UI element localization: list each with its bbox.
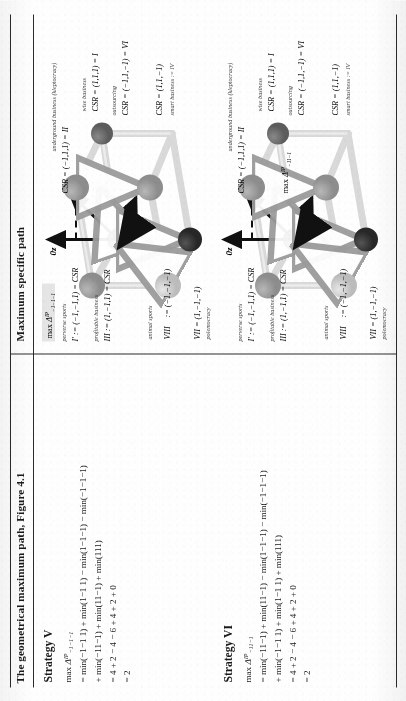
- vertex-IV-formula-2: CSR = (1,1,−1): [331, 63, 340, 115]
- vertex-I-prime-formula-2: I' := (−1,−1,1) = CSR: [247, 267, 256, 342]
- strategy-v-objective: max ΔIP−1−1−1: [61, 372, 76, 682]
- cube-diagram-top-svg: 0z 0y 0x: [40, 11, 216, 343]
- vertex-I-formula: CSR = (1,1,1) = I: [91, 51, 100, 111]
- page-frame: The geometrical maximum path, Figure 4.1…: [0, 0, 406, 701]
- vertex-III-caption-2: profitable business: [268, 294, 275, 342]
- strategy-v-line-1: = min(−1−1 1) + min(1−1 1) − min(1−1−1) …: [76, 372, 91, 682]
- cube-diagram-bottom-svg: 0z 0y 0x underground busines: [216, 11, 392, 343]
- strategy-v-delta-sup: IP: [62, 653, 69, 659]
- vertex-VIII-caption-2: animal sports: [322, 305, 329, 339]
- column-header-specific: Maximum specific path: [14, 226, 26, 341]
- strategy-block-v: Strategy V max ΔIP−1−1−1 = min(−1−1 1) +…: [42, 372, 135, 682]
- vertex-II-caption: underground business (kleptocracy): [50, 62, 58, 151]
- node-VI: [91, 122, 113, 144]
- vertex-VI-caption-2: outsourcing: [286, 86, 293, 115]
- vertex-VIII-roman-2: VIII: [339, 325, 348, 339]
- vertex-III-formula-2: III := (1,−1,1) = CSR: [279, 269, 288, 342]
- vertex-II-caption-2: underground business (kleptocracy): [226, 62, 234, 151]
- strategy-vi-line-2: + min(−1−1 1) + min(1−1 1) + min(111): [271, 372, 286, 682]
- diagram-top-objective-prefix: max: [45, 321, 54, 338]
- cube-edges-2: [252, 133, 366, 285]
- cube-diagram-bottom: 0z 0y 0x underground busines: [216, 11, 392, 343]
- column-header-geometrical: The geometrical maximum path, Figure 4.1: [14, 472, 26, 683]
- vertex-II-formula-2: CSR = (−1,1,1) = II: [237, 125, 246, 193]
- vertex-IV-formula: CSR = (1,1,−1): [155, 63, 164, 115]
- diagram-bottom-objective-sub: −11−1: [286, 151, 292, 166]
- diagram-top-objective-symbol: Δ: [45, 316, 54, 322]
- cube-diagram-top: 0z 0y 0x: [40, 11, 216, 343]
- vertex-III-formula: III := (1,−1,1) = CSR: [103, 269, 112, 342]
- vertex-VI-formula-2: CSR = (−1,1,−1) = VI: [297, 39, 306, 115]
- strategy-v-objective-prefix: max: [63, 664, 73, 682]
- vertex-I-prime-caption: perverse sports: [60, 302, 67, 342]
- strategy-block-vi: Strategy VI max ΔIP−11−1 = min(−11−1) + …: [222, 372, 315, 682]
- vertex-IV-caption: smart business := IV: [168, 62, 175, 115]
- strategy-vi-objective: max ΔIP−11−1: [241, 372, 256, 682]
- vertex-VIII-formula-2: := (−1,−1,−1): [339, 268, 348, 317]
- strategy-vi-line-1: = min(−11−1) + min(11−1) − min(1−1−1) − …: [256, 372, 271, 682]
- vertex-VII-caption-2: polemocracy: [380, 307, 387, 340]
- strategy-vi-objective-prefix: max: [243, 664, 253, 682]
- vertex-I-prime-caption-2: perverse sports: [236, 302, 243, 342]
- strategy-vi-line-4: = 2: [300, 372, 315, 682]
- vertex-I-prime-formula: I' := (−1,−1,1) = CSR: [71, 267, 80, 342]
- vertex-II-formula: CSR = (−1,1,1) = II: [61, 125, 70, 193]
- strategy-vi-delta: Δ: [243, 659, 253, 664]
- vertex-I-caption-2: wise business: [256, 77, 263, 111]
- diagram-top-objective-sub: −1−1−1: [50, 292, 56, 311]
- strategy-vi-line-3: = 4 + 2 − 4 − 6 + 4 + 2 + 0: [286, 372, 301, 682]
- axis-0z-label-2: 0z: [224, 246, 234, 255]
- strategy-v-line-3: = 4 + 2 − 4 − 6 + 4 + 2 + 0: [106, 372, 121, 682]
- diagram-bottom-objective-symbol: Δ: [281, 171, 290, 177]
- node-VIII-2: [354, 227, 378, 251]
- vertex-VI-formula: CSR = (−1,1,−1) = VI: [121, 39, 130, 115]
- node-VI-2: [267, 122, 289, 144]
- strategy-vi-title: Strategy VI: [222, 372, 235, 682]
- cube-edges: [76, 133, 190, 285]
- strategy-v-line-2: + min(−11−1) + min(11−1) + min(111): [91, 372, 106, 682]
- node-IV: [137, 174, 163, 200]
- strategy-v-delta-sub: −1−1−1: [67, 631, 74, 653]
- node-IV-2: [313, 174, 339, 200]
- table-bottom-rule: [396, 14, 397, 687]
- strategy-v-delta: Δ: [63, 659, 73, 664]
- vertex-VII-formula-2: VII = (1,−1,−1): [369, 286, 378, 339]
- vertex-VII-formula: VII = (1,−1,−1): [193, 286, 202, 339]
- strategy-vi-delta-sup: IP: [242, 653, 249, 659]
- node-VIII: [178, 227, 202, 251]
- vertex-VII-caption: polemocracy: [204, 307, 211, 340]
- table-top-rule: [10, 14, 11, 687]
- table-column-divider: [10, 353, 397, 354]
- strategy-v-title: Strategy V: [42, 372, 55, 682]
- diagram-bottom-objective-prefix: max: [281, 176, 290, 193]
- vertex-IV-caption-2: smart business := IV: [344, 62, 351, 115]
- strategy-v-line-4: = 2: [120, 372, 135, 682]
- vertex-I-caption: wise business: [80, 77, 87, 111]
- strategy-vi-delta-sub: −11−1: [247, 636, 254, 653]
- vertex-VIII-caption: animal sports: [146, 305, 153, 339]
- vertex-VIII-roman: VIII: [163, 325, 172, 339]
- vertex-III-caption: profitable business: [92, 294, 99, 342]
- vertex-I-formula-2: CSR = (1,1,1) = I: [267, 51, 276, 111]
- vertex-VIII-formula: := (−1,−1,−1): [163, 268, 172, 317]
- table-header-rule: [33, 14, 34, 687]
- vertex-VI-caption: outsourcing: [110, 86, 117, 115]
- scanned-page: The geometrical maximum path, Figure 4.1…: [0, 0, 406, 701]
- axis-0z-label: 0z: [48, 246, 58, 255]
